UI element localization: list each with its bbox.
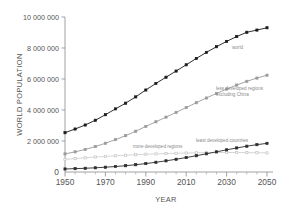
- x-tick-label: 2010: [177, 177, 196, 187]
- data-point-least-developed-countries: [94, 167, 96, 169]
- data-point-more-developed-regions: [185, 152, 187, 154]
- data-point-least-developed-countries: [175, 158, 177, 160]
- data-point-more-developed-regions: [104, 155, 106, 157]
- data-point-less-developed-regions-excluding-china: [64, 153, 66, 155]
- data-point-less-developed-regions-excluding-china: [205, 97, 207, 99]
- data-point-more-developed-regions: [84, 157, 86, 159]
- data-point-less-developed-regions-excluding-china: [135, 130, 137, 132]
- data-point-least-developed-countries: [226, 149, 228, 151]
- data-point-least-developed-countries: [125, 165, 127, 167]
- y-axis-title: WORLD POPULATION: [15, 53, 24, 135]
- y-tick-label: 0: [54, 167, 59, 177]
- data-point-more-developed-regions: [165, 152, 167, 154]
- data-point-least-developed-countries: [205, 153, 207, 155]
- data-point-more-developed-regions: [135, 154, 137, 156]
- population-chart: 02 000 0004 000 0006 000 0008 000 00010 …: [0, 0, 284, 214]
- data-point-more-developed-regions: [125, 154, 127, 156]
- data-point-more-developed-regions: [155, 153, 157, 155]
- data-point-less-developed-regions-excluding-china: [84, 148, 86, 150]
- data-point-world: [94, 119, 96, 121]
- data-point-world: [135, 96, 137, 98]
- data-point-more-developed-regions: [266, 152, 268, 154]
- series-label-less-developed-line2: excluding China: [216, 92, 249, 97]
- data-point-world: [125, 102, 127, 104]
- data-point-least-developed-countries: [236, 147, 238, 149]
- data-point-least-developed-countries: [64, 168, 66, 170]
- data-point-least-developed-countries: [256, 144, 258, 146]
- data-point-least-developed-countries: [185, 156, 187, 158]
- data-point-less-developed-regions-excluding-china: [104, 142, 106, 144]
- data-point-less-developed-regions-excluding-china: [155, 121, 157, 123]
- x-tick-label: 1990: [136, 177, 155, 187]
- data-point-least-developed-countries: [145, 162, 147, 164]
- data-point-least-developed-countries: [114, 165, 116, 167]
- data-point-world: [84, 124, 86, 126]
- x-tick-label: 1970: [96, 177, 115, 187]
- data-point-more-developed-regions: [256, 152, 258, 154]
- data-point-world: [246, 31, 248, 33]
- data-point-world: [145, 89, 147, 91]
- data-point-less-developed-regions-excluding-china: [125, 135, 127, 137]
- x-tick-label: 1950: [56, 177, 75, 187]
- data-point-more-developed-regions: [74, 158, 76, 160]
- data-point-world: [114, 108, 116, 110]
- data-point-world: [205, 51, 207, 53]
- series-label-least-developed: least developed countries: [196, 138, 249, 143]
- data-point-more-developed-regions: [114, 155, 116, 157]
- y-tick-label: 6 000 000: [27, 75, 59, 84]
- data-point-least-developed-countries: [104, 166, 106, 168]
- y-tick-label: 8 000 000: [27, 44, 59, 53]
- chart-canvas: 02 000 0004 000 0006 000 0008 000 00010 …: [0, 0, 284, 214]
- data-point-more-developed-regions: [226, 151, 228, 153]
- data-point-less-developed-regions-excluding-china: [256, 77, 258, 79]
- data-point-world: [175, 70, 177, 72]
- data-point-least-developed-countries: [195, 155, 197, 157]
- data-point-more-developed-regions: [94, 156, 96, 158]
- data-point-world: [226, 40, 228, 42]
- data-point-less-developed-regions-excluding-china: [94, 145, 96, 147]
- data-point-less-developed-regions-excluding-china: [266, 74, 268, 76]
- data-point-world: [155, 82, 157, 84]
- y-tick-label: 2 000 000: [27, 137, 59, 146]
- data-point-more-developed-regions: [246, 152, 248, 154]
- data-point-more-developed-regions: [195, 152, 197, 154]
- data-point-world: [74, 128, 76, 130]
- data-point-less-developed-regions-excluding-china: [195, 102, 197, 104]
- data-point-less-developed-regions-excluding-china: [246, 80, 248, 82]
- series-label-more-developed: more developed regions: [133, 144, 183, 149]
- data-point-less-developed-regions-excluding-china: [185, 106, 187, 108]
- data-point-more-developed-regions: [236, 151, 238, 153]
- data-point-world: [64, 132, 66, 134]
- data-point-world: [266, 27, 268, 29]
- data-point-more-developed-regions: [175, 152, 177, 154]
- data-point-least-developed-countries: [84, 167, 86, 169]
- data-point-least-developed-countries: [135, 164, 137, 166]
- data-point-world: [104, 114, 106, 116]
- data-point-world: [256, 29, 258, 31]
- data-point-least-developed-countries: [246, 145, 248, 147]
- data-point-world: [215, 46, 217, 48]
- data-point-less-developed-regions-excluding-china: [165, 116, 167, 118]
- data-point-least-developed-countries: [165, 160, 167, 162]
- series-label-less-developed-line1: less developed regions: [216, 86, 264, 91]
- y-tick-label: 10 000 000: [23, 13, 59, 22]
- data-point-more-developed-regions: [64, 158, 66, 160]
- x-tick-label: 2050: [258, 177, 277, 187]
- x-axis-title: YEAR: [155, 195, 177, 204]
- y-tick-label: 4 000 000: [27, 106, 59, 115]
- data-point-least-developed-countries: [74, 168, 76, 170]
- data-point-world: [185, 64, 187, 66]
- data-point-world: [195, 57, 197, 59]
- data-point-world: [165, 76, 167, 78]
- data-point-less-developed-regions-excluding-china: [175, 111, 177, 113]
- data-point-world: [236, 35, 238, 37]
- data-point-least-developed-countries: [215, 151, 217, 153]
- data-point-least-developed-countries: [266, 142, 268, 144]
- data-point-more-developed-regions: [145, 153, 147, 155]
- data-point-less-developed-regions-excluding-china: [74, 151, 76, 153]
- data-point-less-developed-regions-excluding-china: [114, 139, 116, 141]
- x-tick-label: 2030: [217, 177, 236, 187]
- data-point-least-developed-countries: [155, 161, 157, 163]
- series-label-world: world: [232, 45, 243, 50]
- data-point-less-developed-regions-excluding-china: [145, 125, 147, 127]
